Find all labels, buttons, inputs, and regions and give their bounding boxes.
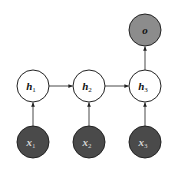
input-node-x3: x3 xyxy=(129,126,161,158)
rnn-diagram: o h1 h2 h3 x1 x2 x3 xyxy=(0,0,177,173)
hidden-node-h2: h2 xyxy=(73,70,105,102)
output-node: o xyxy=(129,14,161,46)
input-node-x2: x2 xyxy=(73,126,105,158)
output-label: o xyxy=(142,24,148,36)
hidden-node-h3: h3 xyxy=(129,70,161,102)
input-node-x1: x1 xyxy=(17,126,49,158)
hidden-node-h1: h1 xyxy=(17,70,49,102)
